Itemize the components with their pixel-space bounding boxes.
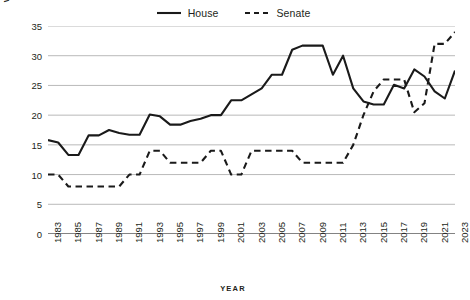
dashed-line-icon [244,8,270,18]
y-tick-label: 5 [20,199,42,210]
series-line-senate [48,32,455,187]
y-tick-label: 20 [20,110,42,121]
x-tick-label: 2015 [378,222,389,243]
y-tick-label: 0 [20,229,42,240]
x-axis-title: YEAR [0,284,466,293]
y-tick-label: 15 [20,139,42,150]
y-tick-label: 25 [20,80,42,91]
x-tick-label: 1995 [174,222,185,243]
x-tick-label: 2023 [459,222,470,243]
x-tick-label: 1983 [52,222,63,243]
solid-line-icon [156,8,182,18]
y-tick-label: 10 [20,169,42,180]
plot-svg [48,26,455,234]
plot-area [48,26,455,234]
x-tick-label: 2009 [317,222,328,243]
chart-legend: House Senate [0,3,466,23]
legend-entry-house: House [156,7,219,19]
x-tick-label: 2011 [337,223,348,243]
x-tick-label: 2005 [276,222,287,243]
x-tick-label: 1989 [113,222,124,243]
x-tick-label: 1997 [194,222,205,243]
x-tick-label: 1987 [93,222,104,243]
x-tick-label: 1993 [154,222,165,243]
x-tick-label: 1985 [72,222,83,243]
x-tick-label: 1999 [215,222,226,243]
legend-label-senate: Senate [276,7,310,19]
y-axis-title: WOMEN BY CHAMBER (%) [2,0,16,44]
x-tick-label: 2007 [296,222,307,243]
y-tick-label: 35 [20,21,42,32]
x-tick-label: 2017 [398,222,409,243]
legend-entry-senate: Senate [244,7,310,19]
x-tick-label: 2021 [439,222,450,243]
series-line-house [48,46,455,155]
x-tick-label: 2001 [235,222,246,243]
legend-label-house: House [188,7,219,19]
x-tick-label: 1991 [133,222,144,243]
x-tick-label: 2013 [357,222,368,243]
y-tick-label: 30 [20,50,42,61]
x-tick-label: 2019 [418,222,429,243]
x-tick-label: 2003 [256,222,267,243]
